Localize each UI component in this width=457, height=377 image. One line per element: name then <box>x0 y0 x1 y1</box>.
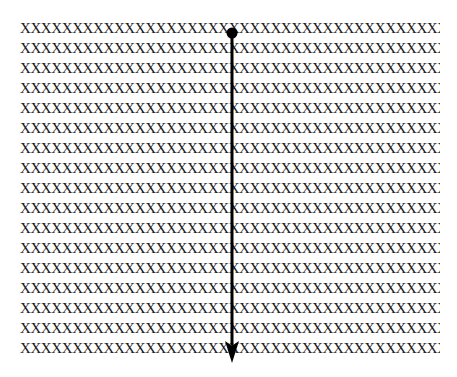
x-row: XXXXXXXXXXXXXXXXXXXXXXXXXXXXXXXXXXXXXXXX… <box>20 258 440 278</box>
x-row: XXXXXXXXXXXXXXXXXXXXXXXXXXXXXXXXXXXXXXXX… <box>20 158 440 178</box>
x-row: XXXXXXXXXXXXXXXXXXXXXXXXXXXXXXXXXXXXXXXX… <box>20 198 440 218</box>
x-row: XXXXXXXXXXXXXXXXXXXXXXXXXXXXXXXXXXXXXXXX… <box>20 298 440 318</box>
x-row: XXXXXXXXXXXXXXXXXXXXXXXXXXXXXXXXXXXXXXXX… <box>20 58 440 78</box>
x-row: XXXXXXXXXXXXXXXXXXXXXXXXXXXXXXXXXXXXXXXX… <box>20 318 440 338</box>
x-row: XXXXXXXXXXXXXXXXXXXXXXXXXXXXXXXXXXXXXXXX… <box>20 118 440 138</box>
x-row: XXXXXXXXXXXXXXXXXXXXXXXXXXXXXXXXXXXXXXXX… <box>20 218 440 238</box>
x-row: XXXXXXXXXXXXXXXXXXXXXXXXXXXXXXXXXXXXXXXX… <box>20 178 440 198</box>
x-row: XXXXXXXXXXXXXXXXXXXXXXXXXXXXXXXXXXXXXXXX… <box>20 278 440 298</box>
figure-canvas: XXXXXXXXXXXXXXXXXXXXXXXXXXXXXXXXXXXXXXXX… <box>0 0 457 377</box>
x-row: XXXXXXXXXXXXXXXXXXXXXXXXXXXXXXXXXXXXXXXX… <box>20 338 440 358</box>
x-row: XXXXXXXXXXXXXXXXXXXXXXXXXXXXXXXXXXXXXXXX… <box>20 98 440 118</box>
x-row: XXXXXXXXXXXXXXXXXXXXXXXXXXXXXXXXXXXXXXXX… <box>20 78 440 98</box>
x-row: XXXXXXXXXXXXXXXXXXXXXXXXXXXXXXXXXXXXXXXX… <box>20 238 440 258</box>
x-row: XXXXXXXXXXXXXXXXXXXXXXXXXXXXXXXXXXXXXXXX… <box>20 38 440 58</box>
x-row: XXXXXXXXXXXXXXXXXXXXXXXXXXXXXXXXXXXXXXXX… <box>20 138 440 158</box>
x-row: XXXXXXXXXXXXXXXXXXXXXXXXXXXXXXXXXXXXXXXX… <box>20 18 440 38</box>
x-character-field: XXXXXXXXXXXXXXXXXXXXXXXXXXXXXXXXXXXXXXXX… <box>20 18 440 368</box>
